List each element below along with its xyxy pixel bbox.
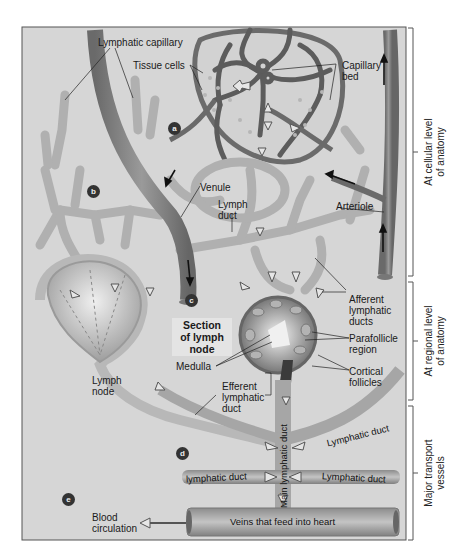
arteriole-vessel <box>385 30 392 275</box>
side-label-transport: Major transport vessels <box>423 418 447 528</box>
label-afferent-lymphatic-ducts: Afferent lymphatic ducts <box>349 294 391 327</box>
side-brackets <box>408 28 418 540</box>
step-badge-a: a <box>168 122 181 135</box>
step-badge-d: d <box>176 447 189 460</box>
label-tissue-cells: Tissue cells <box>133 60 185 71</box>
label-medulla: Medulla <box>176 361 211 372</box>
side-label-regional: At regional level of anatomy <box>423 286 447 396</box>
step-badge-b: b <box>87 185 100 198</box>
label-lymph-node: Lymph node <box>92 375 122 397</box>
label-capillary-bed: Capillary bed <box>342 60 381 82</box>
label-veins-feed-heart: Veins that feed into heart <box>230 516 335 527</box>
label-blood-circulation: Blood circulation <box>92 512 137 534</box>
label-lymphatic-capillary: Lymphatic capillary <box>98 37 183 48</box>
diagram-artwork <box>0 0 460 553</box>
label-venule: Venule <box>200 182 231 193</box>
lymphatic-diagram: a b c d e Lymphatic capillary Tissue cel… <box>0 0 460 553</box>
label-parafollicle-region: Parafollicle region <box>349 333 398 355</box>
side-label-cellular: At cellular level of anatomy <box>423 97 447 207</box>
label-lymph-duct: Lymph duct <box>218 199 248 221</box>
label-arteriole: Arteriole <box>336 201 373 212</box>
label-main-lymphatic-duct: Main lymphatic duct <box>278 424 289 508</box>
label-efferent-lymphatic-duct: Efferent lymphatic duct <box>222 381 264 414</box>
step-badge-c: c <box>185 294 198 307</box>
label-cortical-follicles: Cortical follicles <box>349 366 383 388</box>
label-section-of-lymph-node: Section of lymph node <box>172 318 232 356</box>
step-badge-e: e <box>62 493 75 506</box>
